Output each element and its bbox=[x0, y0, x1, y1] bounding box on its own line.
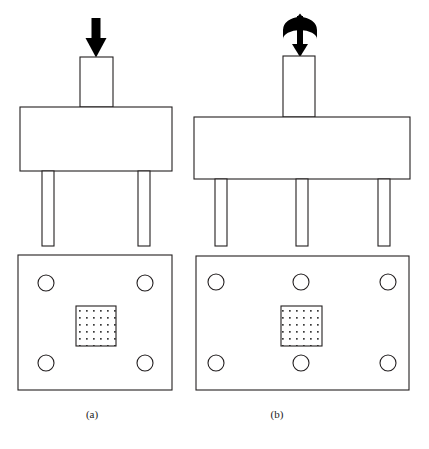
bolt-hole-b-6 bbox=[380, 355, 396, 371]
stipple-square-a bbox=[76, 306, 116, 346]
diagram-canvas bbox=[0, 0, 429, 449]
support-leg-a-1 bbox=[42, 171, 54, 246]
punch-column-b bbox=[283, 56, 315, 117]
bolt-hole-a-3 bbox=[38, 355, 54, 371]
caption-label-a: (a) bbox=[62, 408, 122, 420]
caption-label-b: (b) bbox=[247, 408, 307, 420]
bolt-hole-b-3 bbox=[380, 274, 396, 290]
punch-column-a bbox=[80, 57, 113, 107]
bolt-hole-b-1 bbox=[208, 274, 224, 290]
support-leg-b-3 bbox=[378, 179, 390, 246]
support-leg-a-2 bbox=[138, 171, 150, 246]
main-block-b bbox=[194, 117, 410, 179]
bolt-hole-b-5 bbox=[293, 355, 309, 371]
bolt-hole-b-2 bbox=[293, 274, 309, 290]
stipple-square-b bbox=[281, 306, 322, 346]
support-leg-b-1 bbox=[215, 179, 227, 246]
main-block-a bbox=[20, 107, 172, 171]
bolt-hole-b-4 bbox=[208, 355, 224, 371]
figure-container: (a) (b) bbox=[0, 0, 429, 449]
bolt-hole-a-2 bbox=[137, 275, 153, 291]
support-leg-b-2 bbox=[296, 179, 308, 246]
bolt-hole-a-1 bbox=[38, 275, 54, 291]
bolt-hole-a-4 bbox=[137, 355, 153, 371]
